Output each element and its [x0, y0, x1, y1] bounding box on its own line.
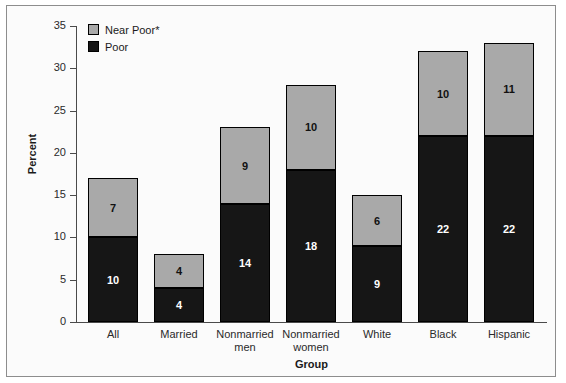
bar-value-label: 4 — [176, 265, 182, 277]
y-axis-line — [76, 26, 77, 323]
bar-segment-near-poor[interactable]: 10 — [418, 51, 468, 136]
bar-value-label: 6 — [374, 215, 380, 227]
bar-value-label: 22 — [437, 223, 449, 235]
bar-segment-poor[interactable]: 18 — [286, 170, 336, 322]
y-axis-tick-value: 35 — [24, 20, 66, 31]
legend: Near Poor*Poor — [88, 22, 218, 56]
y-axis-tick-label: 30 — [20, 62, 66, 73]
bar-value-label: 18 — [305, 240, 317, 252]
legend-item-label: Near Poor* — [105, 24, 159, 36]
x-axis-label-line: Nonmarried — [208, 328, 282, 341]
y-axis-tick-value: 30 — [24, 62, 66, 73]
y-axis-tick-label: 0 — [20, 316, 66, 327]
y-axis-tick-value: 5 — [24, 274, 66, 285]
bar-segment-near-poor[interactable]: 11 — [484, 43, 534, 136]
bar-segment-near-poor[interactable]: 6 — [352, 195, 402, 246]
x-axis-category-label: Black — [406, 328, 480, 341]
bar-group[interactable]: 44 — [154, 0, 204, 383]
x-axis-label-line: All — [76, 328, 150, 341]
y-axis-tick-label: 35 — [20, 20, 66, 31]
y-axis-tick-label: 5 — [20, 274, 66, 285]
y-axis-tick-value: 25 — [24, 105, 66, 116]
y-axis-tick-label: 15 — [20, 189, 66, 200]
bar-value-label: 9 — [242, 160, 248, 172]
bar-group[interactable]: 710 — [88, 0, 138, 383]
x-axis-category-label: All — [76, 328, 150, 341]
bar-segment-near-poor[interactable]: 10 — [286, 85, 336, 170]
bar-segment-poor[interactable]: 22 — [418, 136, 468, 322]
x-axis-label-line: Black — [406, 328, 480, 341]
y-axis-tick-label: 25 — [20, 105, 66, 116]
poor-swatch — [88, 41, 99, 52]
bar-group[interactable]: 1122 — [484, 0, 534, 383]
x-axis-label-line: Married — [142, 328, 216, 341]
stacked-bar-chart: 05101520253035 Percent Group 71044914101… — [0, 0, 566, 383]
bar-segment-poor[interactable]: 4 — [154, 288, 204, 322]
legend-item[interactable]: Near Poor* — [88, 22, 218, 37]
bar-segment-near-poor[interactable]: 9 — [220, 127, 270, 203]
bar-value-label: 4 — [176, 299, 182, 311]
y-axis-tick-value: 10 — [24, 231, 66, 242]
legend-item-label: Poor — [105, 41, 128, 53]
bar-value-label: 10 — [437, 88, 449, 100]
bar-segment-near-poor[interactable]: 4 — [154, 254, 204, 288]
x-axis-category-label: Nonmarriedwomen — [274, 328, 348, 354]
bar-group[interactable]: 1022 — [418, 0, 468, 383]
y-axis-tick-label: 10 — [20, 231, 66, 242]
x-axis-label-line: White — [340, 328, 414, 341]
y-axis-tick — [70, 280, 76, 281]
bar-segment-poor[interactable]: 10 — [88, 237, 138, 322]
y-axis-tick — [70, 322, 76, 323]
bar-value-label: 10 — [305, 121, 317, 133]
near-poor-swatch — [88, 24, 99, 35]
x-axis-label-line: Nonmarried — [274, 328, 348, 341]
bar-segment-poor[interactable]: 22 — [484, 136, 534, 322]
bar-value-label: 11 — [503, 83, 515, 95]
y-axis-title: Percent — [26, 119, 38, 189]
x-axis-label-line: women — [274, 341, 348, 354]
bar-segment-near-poor[interactable]: 7 — [88, 178, 138, 237]
bar-group[interactable]: 1018 — [286, 0, 336, 383]
bar-value-label: 7 — [110, 202, 116, 214]
x-axis-category-label: White — [340, 328, 414, 341]
y-axis-tick — [70, 26, 76, 27]
legend-item[interactable]: Poor — [88, 39, 218, 54]
bar-value-label: 14 — [239, 257, 251, 269]
x-axis-category-label: Hispanic — [472, 328, 546, 341]
x-axis-label-line: Hispanic — [472, 328, 546, 341]
bar-group[interactable]: 914 — [220, 0, 270, 383]
bar-value-label: 10 — [107, 274, 119, 286]
x-axis-category-label: Married — [142, 328, 216, 341]
y-axis-tick — [70, 153, 76, 154]
y-axis-tick-value: 0 — [24, 316, 66, 327]
bar-segment-poor[interactable]: 9 — [352, 246, 402, 322]
bar-value-label: 22 — [503, 223, 515, 235]
y-axis-tick-value: 15 — [24, 189, 66, 200]
bar-value-label: 9 — [374, 278, 380, 290]
bar-segment-poor[interactable]: 14 — [220, 204, 270, 322]
x-axis-label-line: men — [208, 341, 282, 354]
y-axis-tick — [70, 195, 76, 196]
x-axis-category-label: Nonmarriedmen — [208, 328, 282, 354]
y-axis-tick — [70, 111, 76, 112]
bar-group[interactable]: 69 — [352, 0, 402, 383]
y-axis-tick — [70, 237, 76, 238]
y-axis-tick — [70, 68, 76, 69]
